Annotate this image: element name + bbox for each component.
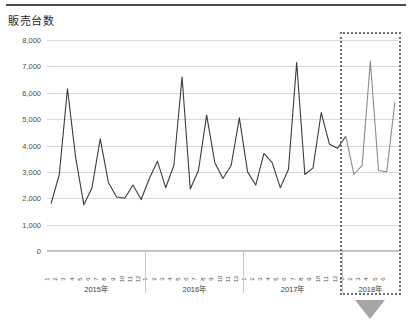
x-axis-month-tick: 7 xyxy=(93,277,99,280)
header-rule xyxy=(6,4,406,6)
x-axis-month-tick: 6 xyxy=(379,277,385,280)
year-group-separator xyxy=(342,251,343,293)
series-segment xyxy=(346,61,395,174)
x-axis-month-tick: 10 xyxy=(119,276,125,283)
chart-title: 販売台数 xyxy=(8,12,54,28)
y-axis-tick-label: 8,000 xyxy=(22,36,41,45)
x-axis-month-tick: 3 xyxy=(158,277,164,280)
x-axis-month-tick: 11 xyxy=(127,276,133,282)
plot-area xyxy=(47,40,399,251)
y-axis-tick-label: 6,000 xyxy=(22,88,41,97)
x-axis-month-tick: 1 xyxy=(44,277,50,280)
y-axis-labels: 01,0002,0003,0004,0005,0006,0007,0008,00… xyxy=(0,40,44,251)
y-axis-tick-label: 7,000 xyxy=(22,62,41,71)
x-axis-year-label: 2016年 xyxy=(145,283,243,294)
x-axis-month-tick: 2 xyxy=(248,277,254,280)
x-axis-month-tick: 8 xyxy=(199,277,205,280)
x-axis-month-tick: 6 xyxy=(281,277,287,280)
x-axis-month-tick: 9 xyxy=(207,277,213,280)
x-axis-month-tick: 5 xyxy=(273,277,279,280)
year-group-separator xyxy=(145,251,146,293)
x-axis-month-tick: 2 xyxy=(52,277,58,280)
x-axis-year-label: 2018年 xyxy=(342,283,399,294)
y-axis-tick-label: 0 xyxy=(37,247,41,256)
x-axis-month-tick: 4 xyxy=(363,277,369,280)
x-axis-month-tick: 4 xyxy=(265,277,271,280)
x-axis-month-tick: 8 xyxy=(298,277,304,280)
x-axis-month-tick: 7 xyxy=(191,277,197,280)
x-axis-month-tick: 4 xyxy=(167,277,173,280)
x-axis-month-tick: 5 xyxy=(77,277,83,280)
x-axis-month-tick: 12 xyxy=(234,276,240,283)
y-axis-tick-label: 1,000 xyxy=(22,220,41,229)
x-axis-month-tick: 12 xyxy=(135,276,141,283)
x-axis-month-tick: 12 xyxy=(332,276,338,283)
year-group-separator xyxy=(243,251,244,293)
x-axis-month-tick: 8 xyxy=(101,277,107,280)
series-line xyxy=(47,40,399,251)
y-axis-tick-label: 5,000 xyxy=(22,115,41,124)
x-axis-month-tick: 11 xyxy=(225,276,231,282)
x-axis-year-label: 2015年 xyxy=(47,283,145,294)
x-axis-top-rule xyxy=(47,251,399,252)
x-axis-month-tick: 3 xyxy=(60,277,66,280)
x-axis-month-tick: 10 xyxy=(217,276,223,283)
x-axis-band: 1234567891011121234567891011121234567891… xyxy=(47,251,399,295)
x-axis-month-tick: 2 xyxy=(347,277,353,280)
x-axis-month-tick: 5 xyxy=(371,277,377,280)
x-axis-month-tick: 9 xyxy=(306,277,312,280)
triangle-pointer-icon xyxy=(355,300,385,319)
y-axis-tick-label: 3,000 xyxy=(22,167,41,176)
x-axis-month-tick: 9 xyxy=(109,277,115,280)
x-axis-month-tick: 7 xyxy=(289,277,295,280)
x-axis-month-tick: 6 xyxy=(85,277,91,280)
x-axis-month-tick: 2 xyxy=(150,277,156,280)
series-segment xyxy=(51,62,346,204)
y-axis-tick-label: 2,000 xyxy=(22,194,41,203)
y-axis-tick-label: 4,000 xyxy=(22,141,41,150)
x-axis-month-tick: 5 xyxy=(175,277,181,280)
x-axis-year-label: 2017年 xyxy=(243,283,341,294)
x-axis-month-tick: 3 xyxy=(355,277,361,280)
x-axis-month-tick: 4 xyxy=(68,277,74,280)
x-axis-month-tick: 6 xyxy=(183,277,189,280)
x-axis-month-tick: 10 xyxy=(316,276,322,283)
sales-line-chart: 販売台数 01,0002,0003,0004,0005,0006,0007,00… xyxy=(0,0,413,328)
x-axis-month-tick: 3 xyxy=(257,277,263,280)
x-axis-month-tick: 11 xyxy=(324,276,330,282)
